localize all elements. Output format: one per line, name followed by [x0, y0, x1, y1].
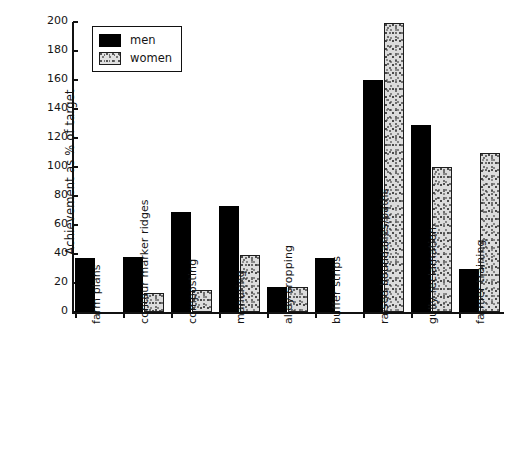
- y-tick-mark: [73, 21, 78, 23]
- x-tick-mark: [459, 313, 461, 318]
- x-category-label: farmer training: [474, 239, 487, 324]
- legend-label-men: men: [130, 33, 156, 47]
- y-tick-label: 40: [54, 246, 68, 259]
- y-tick-mark: [73, 79, 78, 81]
- x-tick-mark: [171, 313, 173, 318]
- y-tick-mark: [73, 195, 78, 197]
- y-tick-label: 180: [47, 43, 68, 56]
- x-tick-mark: [411, 313, 413, 318]
- x-tick-mark: [75, 313, 77, 318]
- y-tick-mark: [73, 224, 78, 226]
- x-tick-mark: [219, 313, 221, 318]
- bar-chart-figure: Achievement as % of target 0204060801001…: [0, 0, 513, 449]
- y-tick-mark: [73, 108, 78, 110]
- x-category-label: alley cropping: [282, 245, 295, 324]
- x-category-label: contour marker ridges: [138, 199, 151, 324]
- x-category-label: buffer strips: [330, 256, 343, 324]
- y-tick-label: 80: [54, 188, 68, 201]
- x-tick-mark: [315, 313, 317, 318]
- x-tick-mark: [123, 313, 125, 318]
- x-category-label: manuring: [234, 270, 247, 324]
- y-tick-label: 60: [54, 217, 68, 230]
- y-tick-label: 0: [61, 304, 68, 317]
- y-tick-mark: [73, 166, 78, 168]
- x-category-label: composting: [186, 259, 199, 324]
- y-tick-mark: [73, 50, 78, 52]
- legend-swatch-men-icon: [99, 34, 121, 47]
- x-tick-mark: [363, 313, 365, 318]
- y-tick-mark: [73, 253, 78, 255]
- y-tick-label: 100: [47, 159, 68, 172]
- y-tick-label: 120: [47, 130, 68, 143]
- legend-item-men: men: [99, 31, 172, 49]
- x-category-label: farm plans: [90, 264, 103, 324]
- y-tick-label: 140: [47, 101, 68, 114]
- legend-swatch-women-icon: [99, 52, 121, 65]
- chart-legend: men women: [92, 26, 182, 72]
- x-category-label: gully reclamation: [426, 227, 439, 324]
- x-tick-mark: [267, 313, 269, 318]
- legend-label-women: women: [130, 51, 172, 65]
- legend-item-women: women: [99, 49, 172, 67]
- x-category-label: raised boundaries/paths: [378, 189, 391, 325]
- y-tick-label: 160: [47, 72, 68, 85]
- y-tick-label: 200: [47, 14, 68, 27]
- y-tick-label: 20: [54, 275, 68, 288]
- y-tick-mark: [73, 137, 78, 139]
